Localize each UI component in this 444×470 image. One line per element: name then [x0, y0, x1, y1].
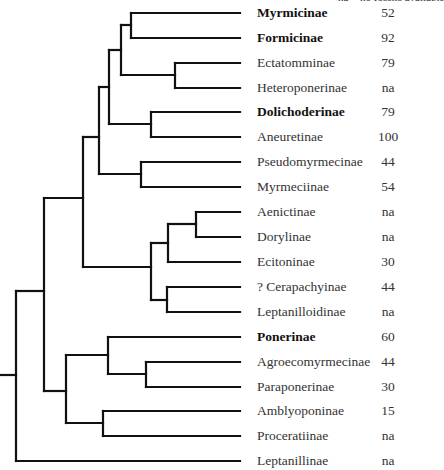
taxon-label: Ponerinae [257, 329, 316, 345]
fossil-age-value: 52 [370, 5, 406, 21]
taxon-label: Ectatomminae [257, 55, 335, 71]
taxon-label: Formicinae [257, 30, 323, 46]
fossil-age-value: na [370, 428, 406, 444]
taxon-label: Myrmeciinae [257, 179, 329, 195]
taxon-label: Dorylinae [257, 229, 311, 245]
fossil-age-value: 15 [370, 403, 406, 419]
fossil-age-value: na [370, 80, 406, 96]
fossil-age-value: 30 [370, 254, 406, 270]
fossil-age-value: 100 [370, 129, 406, 145]
fossil-age-value: 79 [370, 104, 406, 120]
taxon-label: Aneuretinae [257, 129, 323, 145]
taxon-label: Dolichoderinae [257, 104, 345, 120]
taxon-label: Pseudomyrmecinae [257, 154, 363, 170]
taxon-label: Leptanilloidinae [257, 304, 345, 320]
taxon-label: Myrmicinae [257, 5, 327, 21]
fossil-age-value: 79 [370, 55, 406, 71]
fossil-age-value: na [370, 204, 406, 220]
taxon-label: Aenictinae [257, 204, 315, 220]
taxon-label: Paraponerinae [257, 379, 334, 395]
fossil-age-value: na [370, 453, 406, 469]
fossil-age-value: 54 [370, 179, 406, 195]
taxon-label: Leptanillinae [257, 453, 328, 469]
taxon-label: Proceratiinae [257, 428, 328, 444]
fossil-age-value: 92 [370, 30, 406, 46]
fossil-age-value: na [370, 304, 406, 320]
fossil-age-value: 44 [370, 154, 406, 170]
taxon-label: Amblyoponinae [257, 403, 344, 419]
taxon-label: Heteroponerinae [257, 80, 347, 96]
fossil-age-value: 44 [370, 354, 406, 370]
fossil-age-value: 30 [370, 379, 406, 395]
fossil-age-value: 44 [370, 279, 406, 295]
taxon-label: ? Cerapachyinae [257, 279, 347, 295]
taxon-label: Ecitoninae [257, 254, 315, 270]
fossil-age-value: 60 [370, 329, 406, 345]
fossil-age-value: na [370, 229, 406, 245]
taxon-label: Agroecomyrmecinae [257, 354, 370, 370]
